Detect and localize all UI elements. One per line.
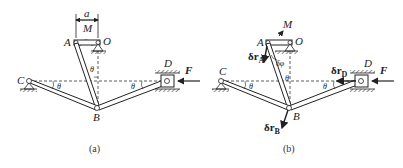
label-B: B [93,111,100,123]
label-A-b: A [256,36,264,48]
label-theta-B: θ [90,65,94,74]
label-F-b: F [379,64,388,76]
label-theta-C: θ [57,82,61,91]
mechanism-diagram: a M A O B C [0,0,403,168]
panel-a: a M A O B C [17,7,200,155]
caption-a: (a) [89,143,100,155]
label-O: O [103,35,111,47]
label-drD: δrD [331,64,348,79]
virtual-disp-B-arrow [282,110,288,128]
label-B-b: B [293,110,300,122]
label-theta-D-b: θ [323,82,327,91]
moment-arrow [279,31,283,36]
label-C: C [17,74,25,86]
label-C-b: C [219,65,227,77]
label-A: A [63,36,71,48]
label-D: D [163,57,172,69]
virtual-disp-A-arrow [264,46,267,62]
label-D-b: D [363,57,372,69]
label-M-b: M [282,18,293,30]
joint-B [95,106,100,111]
panel-b: M A O B C D [212,18,394,155]
label-F: F [184,64,193,76]
label-M: M [82,22,93,34]
label-a: a [84,7,90,19]
label-O-b: O [295,35,303,47]
label-theta-C-b: θ [249,82,253,91]
label-theta-D: θ [131,82,135,91]
label-theta-B-b: θ [285,74,289,83]
caption-b: (b) [283,143,295,155]
label-dphi: δφ [276,59,285,68]
label-drA: δrA [248,50,265,65]
label-drB: δrB [264,121,281,136]
